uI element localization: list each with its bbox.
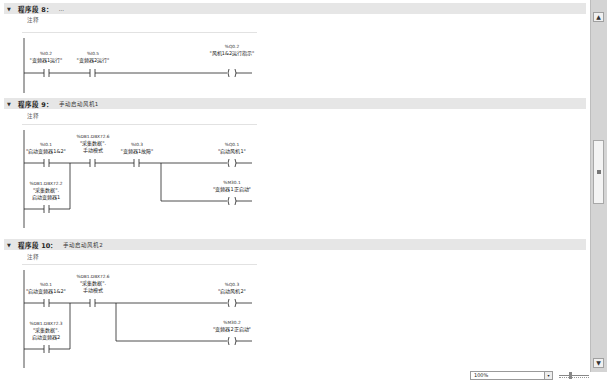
network-8-rung: %I0.2 "变频器1运行" %I0.5 "变频器2运行" %Q0.2 "风机1… bbox=[0, 0, 590, 100]
coil-tag: "启动风机1" bbox=[218, 148, 246, 155]
zoom-controls: 100% ▾ bbox=[470, 365, 590, 385]
scroll-thumb[interactable] bbox=[593, 140, 604, 204]
contact-address: %I0.1 bbox=[40, 142, 52, 147]
contact-address: %I0.3 bbox=[131, 142, 143, 147]
grip-icon bbox=[597, 170, 601, 174]
zoom-level-value: 100% bbox=[474, 372, 488, 378]
contact-address: %DB1.DBX72.3 bbox=[29, 321, 62, 326]
contact-address: %DB1.DBX72.2 bbox=[29, 181, 62, 186]
vertical-scrollbar[interactable]: ▲ ▼ bbox=[590, 0, 607, 372]
dropdown-icon[interactable]: ▾ bbox=[544, 372, 552, 379]
coil-tag: "启动风机2" bbox=[218, 288, 246, 295]
network-10-header[interactable]: ▼ 程序段 10： 手动启动风机2 bbox=[4, 239, 586, 250]
contact-address: %I0.1 bbox=[40, 282, 52, 287]
contact-member: 启动变频器1 bbox=[32, 194, 60, 201]
slider-ticks bbox=[559, 377, 589, 379]
contact-member: 手动模式 bbox=[83, 147, 103, 154]
chevron-down-icon: ▼ bbox=[596, 359, 601, 366]
contact-member: 手动模式 bbox=[83, 287, 103, 294]
contact-no[interactable]: %DB1.DBX72.3 "采集数据". 启动变频器2 bbox=[29, 321, 62, 353]
network-title: 程序段 10： bbox=[18, 240, 57, 250]
contact-tag: "变频器1运行" bbox=[30, 57, 63, 64]
collapse-icon[interactable]: ▼ bbox=[4, 242, 14, 248]
slider-track bbox=[559, 375, 589, 376]
network-title: 程序段 9： bbox=[18, 99, 53, 109]
contact-tag: "采集数据". bbox=[33, 187, 60, 194]
contact-address: %I0.5 bbox=[87, 51, 99, 56]
ladder-editor[interactable]: ▼ 程序段 8： ... 注释 %I0.2 "变频器1运行" %I0.5 "变频… bbox=[0, 0, 590, 385]
coil-tag: "变频器2正启动" bbox=[213, 326, 251, 333]
coil-address: %Q0.1 bbox=[225, 142, 240, 147]
contact-no[interactable]: %DB1.DBX72.6 "采集数据". 手动模式 bbox=[76, 134, 109, 167]
scroll-down-button[interactable]: ▼ bbox=[593, 358, 604, 368]
coil-tag: "风机1&2运行指示" bbox=[210, 50, 255, 57]
coil-address: %M30.1 bbox=[223, 180, 241, 185]
contact-address: %I0.2 bbox=[40, 51, 52, 56]
scroll-up-button[interactable]: ▲ bbox=[593, 12, 604, 22]
contact-tag: "变频器2运行" bbox=[77, 57, 110, 64]
network-9-header[interactable]: ▼ 程序段 9： 手动启动风机1 bbox=[4, 98, 586, 109]
network-subtitle: 手动启动风机2 bbox=[63, 241, 103, 249]
contact-address: %DB1.DBX72.6 bbox=[76, 134, 109, 139]
zoom-slider[interactable] bbox=[559, 371, 589, 380]
contact-no[interactable]: %DB1.DBX72.6 "采集数据". 手动模式 bbox=[76, 274, 109, 307]
slider-knob[interactable] bbox=[569, 372, 572, 379]
zoom-level-select[interactable]: 100% ▾ bbox=[470, 371, 553, 380]
network-9-rung: %I0.1 "启动变频器1&2" %DB1.DBX72.6 "采集数据". 手动… bbox=[0, 120, 590, 235]
network-subtitle: 手动启动风机1 bbox=[59, 100, 99, 108]
contact-address: %DB1.DBX72.6 bbox=[76, 274, 109, 279]
contact-tag: "采集数据". bbox=[80, 140, 107, 147]
coil-address: %Q0.2 bbox=[225, 44, 240, 49]
contact-tag: "采集数据". bbox=[33, 327, 60, 334]
contact-tag: "采集数据". bbox=[80, 280, 107, 287]
coil-address: %Q0.3 bbox=[225, 282, 240, 287]
contact-tag: "启动变频器1&2" bbox=[26, 148, 66, 155]
coil-address: %M30.2 bbox=[223, 320, 241, 325]
contact-tag: "启动变频器1&2" bbox=[26, 288, 66, 295]
contact-no[interactable]: %DB1.DBX72.2 "采集数据". 启动变频器1 bbox=[29, 181, 62, 213]
contact-tag: "变频器1故障" bbox=[121, 148, 154, 155]
network-comment[interactable]: 注释 bbox=[27, 112, 39, 120]
coil[interactable]: %Q0.2 "风机1&2运行指示" bbox=[210, 44, 255, 77]
coil-tag: "变频器1正启动" bbox=[213, 186, 251, 193]
chevron-up-icon: ▲ bbox=[596, 13, 601, 20]
network-10-rung: %I0.1 "启动变频器1&2" %DB1.DBX72.6 "采集数据". 手动… bbox=[0, 260, 590, 375]
contact-member: 启动变频器2 bbox=[32, 334, 60, 341]
collapse-icon[interactable]: ▼ bbox=[4, 101, 14, 107]
